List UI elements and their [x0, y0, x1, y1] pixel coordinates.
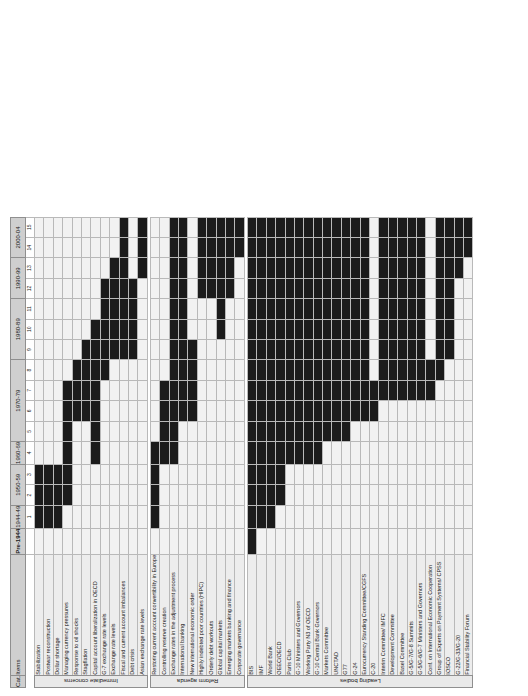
matrix-cell-filled[interactable]	[216, 299, 225, 319]
matrix-cell-empty[interactable]	[44, 441, 53, 464]
matrix-cell-filled[interactable]	[398, 360, 407, 380]
matrix-cell-filled[interactable]	[110, 299, 119, 319]
matrix-cell-filled[interactable]	[257, 319, 266, 339]
matrix-cell-empty[interactable]	[128, 238, 137, 258]
matrix-cell-empty[interactable]	[294, 464, 303, 484]
matrix-cell-empty[interactable]	[197, 485, 206, 505]
matrix-cell-empty[interactable]	[313, 464, 322, 484]
matrix-cell-empty[interactable]	[53, 217, 62, 237]
matrix-cell-filled[interactable]	[247, 528, 256, 554]
matrix-cell-empty[interactable]	[463, 505, 472, 528]
matrix-cell-filled[interactable]	[388, 319, 397, 339]
matrix-cell-empty[interactable]	[463, 401, 472, 421]
matrix-cell-filled[interactable]	[388, 238, 397, 258]
matrix-cell-empty[interactable]	[138, 380, 147, 400]
matrix-cell-filled[interactable]	[407, 380, 416, 400]
matrix-cell-filled[interactable]	[388, 217, 397, 237]
matrix-cell-empty[interactable]	[235, 339, 244, 359]
matrix-cell-filled[interactable]	[304, 441, 313, 464]
matrix-cell-empty[interactable]	[119, 401, 128, 421]
matrix-cell-empty[interactable]	[63, 258, 72, 278]
matrix-cell-empty[interactable]	[188, 421, 197, 441]
matrix-cell-filled[interactable]	[407, 258, 416, 278]
matrix-cell-empty[interactable]	[197, 421, 206, 441]
matrix-cell-filled[interactable]	[257, 421, 266, 441]
matrix-cell-empty[interactable]	[435, 401, 444, 421]
table-row[interactable]: Group of Experts on Payment Systems/ CPS…	[435, 217, 444, 687]
matrix-cell-filled[interactable]	[266, 258, 275, 278]
matrix-cell-filled[interactable]	[341, 238, 350, 258]
matrix-cell-empty[interactable]	[110, 441, 119, 464]
matrix-cell-empty[interactable]	[398, 528, 407, 554]
matrix-cell-empty[interactable]	[235, 421, 244, 441]
matrix-cell-filled[interactable]	[276, 217, 285, 237]
matrix-cell-filled[interactable]	[398, 238, 407, 258]
matrix-cell-empty[interactable]	[398, 464, 407, 484]
matrix-cell-empty[interactable]	[445, 528, 454, 554]
matrix-cell-empty[interactable]	[435, 441, 444, 464]
table-row[interactable]: Controlling reserve creation	[160, 217, 169, 687]
matrix-cell-empty[interactable]	[150, 319, 159, 339]
matrix-cell-empty[interactable]	[379, 401, 388, 421]
matrix-cell-empty[interactable]	[160, 217, 169, 237]
matrix-cell-empty[interactable]	[417, 505, 426, 528]
matrix-cell-empty[interactable]	[454, 380, 463, 400]
matrix-cell-empty[interactable]	[445, 360, 454, 380]
matrix-cell-filled[interactable]	[285, 299, 294, 319]
matrix-cell-filled[interactable]	[304, 380, 313, 400]
matrix-cell-filled[interactable]	[360, 319, 369, 339]
matrix-cell-empty[interactable]	[207, 528, 216, 554]
matrix-cell-filled[interactable]	[332, 299, 341, 319]
matrix-cell-empty[interactable]	[91, 278, 100, 298]
matrix-cell-empty[interactable]	[370, 299, 379, 319]
matrix-cell-filled[interactable]	[379, 319, 388, 339]
matrix-cell-empty[interactable]	[81, 299, 90, 319]
matrix-cell-empty[interactable]	[379, 441, 388, 464]
table-row[interactable]: Dollar shortage	[53, 217, 62, 687]
matrix-cell-empty[interactable]	[235, 258, 244, 278]
matrix-cell-empty[interactable]	[388, 528, 397, 554]
matrix-cell-empty[interactable]	[370, 217, 379, 237]
matrix-cell-filled[interactable]	[44, 505, 53, 528]
matrix-cell-filled[interactable]	[100, 299, 109, 319]
matrix-cell-empty[interactable]	[91, 485, 100, 505]
matrix-cell-filled[interactable]	[197, 258, 206, 278]
matrix-cell-empty[interactable]	[323, 464, 332, 484]
matrix-cell-empty[interactable]	[35, 217, 44, 237]
matrix-cell-empty[interactable]	[81, 485, 90, 505]
matrix-cell-empty[interactable]	[110, 464, 119, 484]
matrix-cell-filled[interactable]	[276, 238, 285, 258]
matrix-cell-filled[interactable]	[216, 319, 225, 339]
matrix-cell-filled[interactable]	[388, 258, 397, 278]
matrix-cell-empty[interactable]	[138, 464, 147, 484]
matrix-cell-empty[interactable]	[379, 464, 388, 484]
matrix-cell-filled[interactable]	[169, 258, 178, 278]
matrix-cell-empty[interactable]	[128, 217, 137, 237]
matrix-cell-empty[interactable]	[226, 505, 235, 528]
matrix-cell-filled[interactable]	[276, 401, 285, 421]
matrix-cell-empty[interactable]	[44, 528, 53, 554]
matrix-cell-filled[interactable]	[445, 258, 454, 278]
matrix-cell-empty[interactable]	[463, 380, 472, 400]
matrix-cell-filled[interactable]	[110, 339, 119, 359]
table-row[interactable]: IMF	[257, 217, 266, 687]
matrix-cell-empty[interactable]	[454, 339, 463, 359]
matrix-cell-empty[interactable]	[150, 380, 159, 400]
matrix-cell-filled[interactable]	[247, 441, 256, 464]
matrix-cell-filled[interactable]	[207, 217, 216, 237]
matrix-cell-filled[interactable]	[266, 464, 275, 484]
matrix-cell-empty[interactable]	[100, 401, 109, 421]
matrix-cell-empty[interactable]	[463, 278, 472, 298]
table-row[interactable]: Stagflation	[81, 217, 90, 687]
matrix-cell-empty[interactable]	[138, 528, 147, 554]
matrix-cell-empty[interactable]	[235, 380, 244, 400]
matrix-cell-empty[interactable]	[226, 319, 235, 339]
matrix-cell-filled[interactable]	[216, 258, 225, 278]
matrix-cell-empty[interactable]	[332, 485, 341, 505]
matrix-cell-filled[interactable]	[119, 278, 128, 298]
matrix-cell-empty[interactable]	[53, 299, 62, 319]
matrix-cell-filled[interactable]	[388, 380, 397, 400]
matrix-cell-empty[interactable]	[63, 299, 72, 319]
matrix-cell-empty[interactable]	[407, 505, 416, 528]
matrix-cell-empty[interactable]	[188, 238, 197, 258]
